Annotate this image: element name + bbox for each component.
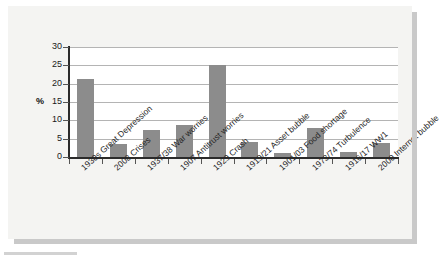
x-axis-tick <box>266 159 267 164</box>
footer-rule <box>4 252 77 255</box>
panel-shadow-right <box>412 12 417 244</box>
y-axis-tick-label: 30 <box>40 42 62 51</box>
x-axis-tick <box>299 159 300 164</box>
y-axis-tick-label: 5 <box>40 134 62 143</box>
chart-panel: 051015202530 % 1930s Great Depression200… <box>8 6 412 239</box>
bar <box>77 79 94 157</box>
x-axis-tick <box>332 159 333 164</box>
x-axis-tick <box>135 159 136 164</box>
y-axis-tick <box>63 157 69 158</box>
y-axis-tick-label: 20 <box>40 79 62 88</box>
x-axis-tick <box>234 159 235 164</box>
panel-shadow-bottom <box>14 239 417 244</box>
y-axis-tick-labels: 051015202530 <box>36 6 62 239</box>
y-axis-title: % <box>36 96 44 106</box>
x-axis-tick <box>398 159 399 164</box>
y-axis-tick-label: 10 <box>40 115 62 124</box>
x-axis-tick <box>102 159 103 164</box>
x-axis-tick <box>365 159 366 164</box>
y-axis-tick-label: 0 <box>40 152 62 161</box>
x-axis-tick <box>69 159 70 164</box>
x-axis-tick <box>168 159 169 164</box>
x-axis-tick <box>201 159 202 164</box>
y-axis-tick-label: 25 <box>40 60 62 69</box>
